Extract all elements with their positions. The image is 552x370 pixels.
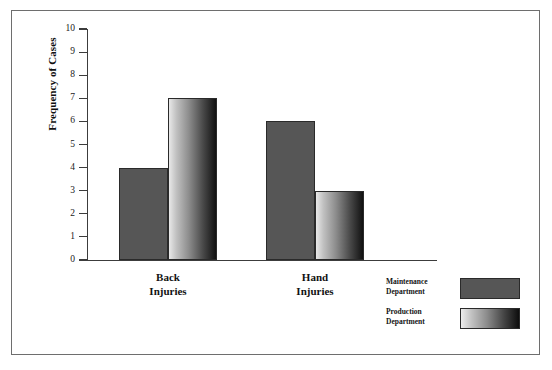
y-tick-mark bbox=[79, 190, 87, 191]
x-category-label-line: Back bbox=[99, 271, 237, 285]
bar-back-injuries-production-department bbox=[168, 98, 217, 260]
y-tick-label: 7 bbox=[50, 93, 75, 103]
y-tick-mark bbox=[79, 121, 87, 122]
bar-hand-injuries-production-department bbox=[315, 191, 364, 260]
legend-label: ProductionDepartment bbox=[386, 307, 456, 327]
y-tick-label: 1 bbox=[50, 232, 75, 242]
chart-legend: MaintenanceDepartmentProductionDepartmen… bbox=[386, 277, 531, 337]
x-category-label-line: Injuries bbox=[99, 285, 237, 299]
bar-back-injuries-maintenance-department bbox=[119, 168, 168, 260]
y-tick-label-text: 9 bbox=[53, 47, 75, 57]
y-tick-label-text: 10 bbox=[53, 24, 75, 34]
legend-label-line: Department bbox=[386, 317, 456, 327]
legend-row: ProductionDepartment bbox=[386, 307, 531, 337]
y-tick-label-text: 8 bbox=[53, 70, 75, 80]
legend-label-line: Production bbox=[386, 307, 456, 317]
y-tick-label-text: 6 bbox=[53, 116, 75, 126]
x-category-label-line: Hand bbox=[246, 271, 384, 285]
legend-swatch-gradient bbox=[460, 308, 520, 329]
legend-label-line: Department bbox=[386, 287, 456, 297]
y-tick-label: 4 bbox=[50, 163, 75, 173]
y-tick-label: 2 bbox=[50, 209, 75, 219]
bars-layer bbox=[88, 29, 438, 260]
bar-hand-injuries-maintenance-department bbox=[266, 121, 315, 260]
y-tick-label: 3 bbox=[50, 186, 75, 196]
y-tick-label-text: 4 bbox=[53, 163, 75, 173]
x-category-label: HandInjuries bbox=[246, 271, 384, 299]
y-tick-label: 0 bbox=[50, 255, 75, 265]
y-tick-label-text: 0 bbox=[53, 255, 75, 265]
y-tick-mark bbox=[79, 236, 87, 237]
y-tick-label: 6 bbox=[50, 116, 75, 126]
y-tick-mark bbox=[79, 98, 87, 99]
y-tick-mark bbox=[79, 144, 87, 145]
y-tick-label-text: 3 bbox=[53, 186, 75, 196]
x-axis-line bbox=[87, 260, 437, 261]
y-tick-label: 10 bbox=[50, 24, 75, 34]
legend-swatch-solid bbox=[460, 278, 520, 299]
y-tick-mark bbox=[79, 52, 87, 53]
chart-figure: Frequency of Cases 012345678910 BackInju… bbox=[0, 0, 552, 370]
y-tick-mark bbox=[79, 75, 87, 76]
x-category-label: BackInjuries bbox=[99, 271, 237, 299]
y-tick-label-text: 2 bbox=[53, 209, 75, 219]
y-tick-label: 9 bbox=[50, 47, 75, 57]
y-tick-label: 8 bbox=[50, 70, 75, 80]
y-tick-mark bbox=[79, 213, 87, 214]
y-tick-label: 5 bbox=[50, 140, 75, 150]
y-tick-mark bbox=[79, 167, 87, 168]
y-tick-label-text: 7 bbox=[53, 93, 75, 103]
x-category-label-line: Injuries bbox=[246, 285, 384, 299]
plot-area: Frequency of Cases 012345678910 BackInju… bbox=[0, 0, 552, 370]
y-tick-label-text: 5 bbox=[53, 140, 75, 150]
y-tick-mark bbox=[79, 28, 87, 29]
legend-row: MaintenanceDepartment bbox=[386, 277, 531, 307]
legend-label: MaintenanceDepartment bbox=[386, 277, 456, 297]
y-tick-mark bbox=[79, 259, 87, 260]
legend-label-line: Maintenance bbox=[386, 277, 456, 287]
y-tick-label-text: 1 bbox=[53, 232, 75, 242]
